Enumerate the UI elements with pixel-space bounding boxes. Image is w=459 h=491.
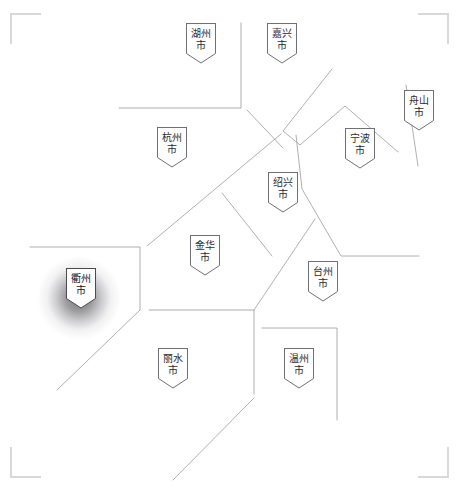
city-label: 湖州 市	[187, 28, 215, 51]
city-label: 舟山 市	[405, 95, 433, 118]
city-marker-ningbo[interactable]: 宁波 市	[345, 128, 375, 158]
marker-tail-icon	[345, 158, 375, 169]
marker-tail-icon	[158, 378, 188, 389]
boundary-jiaxing-south	[247, 110, 283, 148]
marker-tail-icon	[404, 120, 434, 131]
city-marker-taizhou[interactable]: 台州 市	[308, 261, 338, 291]
map-canvas: 湖州 市嘉兴 市舟山 市杭州 市宁波 市绍兴 市金华 市台州 市衢州 市丽水 市…	[0, 0, 459, 491]
boundary-taizhou-west	[254, 219, 315, 310]
boundary-ne-coast	[283, 69, 398, 152]
boundary-huzhou	[119, 23, 241, 108]
city-marker-jinhua[interactable]: 金华 市	[190, 235, 220, 265]
marker-tail-icon	[284, 378, 314, 389]
marker-tail-icon	[190, 265, 220, 276]
city-marker-shaoxing[interactable]: 绍兴 市	[268, 172, 298, 202]
marker-tail-icon	[66, 298, 96, 309]
city-marker-quzhou[interactable]: 衢州 市	[66, 268, 96, 298]
boundary-lishui-south	[173, 398, 254, 480]
boundary-quzhou-south	[57, 310, 140, 390]
city-marker-hangzhou[interactable]: 杭州 市	[157, 127, 187, 157]
city-label: 嘉兴 市	[268, 28, 296, 51]
marker-tail-icon	[267, 53, 297, 64]
city-label: 杭州 市	[158, 132, 186, 155]
city-marker-lishui[interactable]: 丽水 市	[158, 348, 188, 378]
city-marker-huzhou[interactable]: 湖州 市	[186, 23, 216, 53]
marker-tail-icon	[308, 291, 338, 302]
city-label: 衢州 市	[67, 273, 95, 296]
marker-tail-icon	[157, 157, 187, 168]
city-label: 绍兴 市	[269, 177, 297, 200]
city-marker-zhoushan[interactable]: 舟山 市	[404, 90, 434, 120]
city-marker-wenzhou[interactable]: 温州 市	[284, 348, 314, 378]
marker-tail-icon	[186, 53, 216, 64]
boundary-shaoxing-west	[222, 193, 272, 256]
city-label: 金华 市	[191, 240, 219, 263]
boundary-lines	[0, 0, 459, 491]
city-label: 温州 市	[285, 353, 313, 376]
marker-tail-icon	[268, 202, 298, 213]
city-marker-jiaxing[interactable]: 嘉兴 市	[267, 23, 297, 53]
city-label: 台州 市	[309, 266, 337, 289]
city-label: 宁波 市	[346, 133, 374, 156]
city-label: 丽水 市	[159, 353, 187, 376]
